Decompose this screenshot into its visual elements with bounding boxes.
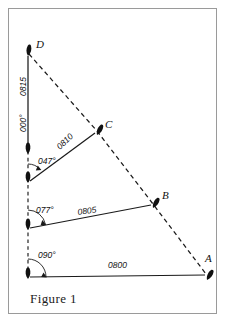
bearing-label-090: 090° — [38, 250, 56, 260]
point-label-B: B — [162, 189, 169, 201]
leg-0800-S0-to-A — [30, 275, 205, 277]
figure-root: D C B A 090° 077° 047° 000° 0800 0805 08… — [0, 0, 228, 323]
point-label-A: A — [204, 252, 212, 264]
point-label-D: D — [35, 38, 44, 50]
station-pin-S0 — [26, 267, 31, 279]
figure-caption: Figure 1 — [30, 291, 77, 307]
figure-drawing: D C B A 090° 077° 047° 000° 0800 0805 08… — [0, 0, 228, 323]
point-label-C: C — [105, 118, 113, 130]
time-label-0815: 0815 — [18, 77, 28, 96]
time-label-0800: 0800 — [108, 260, 127, 270]
point-pin-D — [26, 44, 32, 56]
bearing-label-000: 000° — [18, 114, 28, 132]
bearing-label-077: 077° — [36, 205, 54, 215]
point-pin-A — [205, 269, 215, 281]
station-pin-S1 — [26, 218, 31, 230]
station-pin-S2 — [26, 171, 31, 183]
station-pin-S3 — [26, 142, 31, 154]
time-label-0805: 0805 — [77, 204, 97, 217]
bearing-label-047: 047° — [38, 156, 56, 166]
time-label-0810: 0810 — [54, 131, 75, 152]
